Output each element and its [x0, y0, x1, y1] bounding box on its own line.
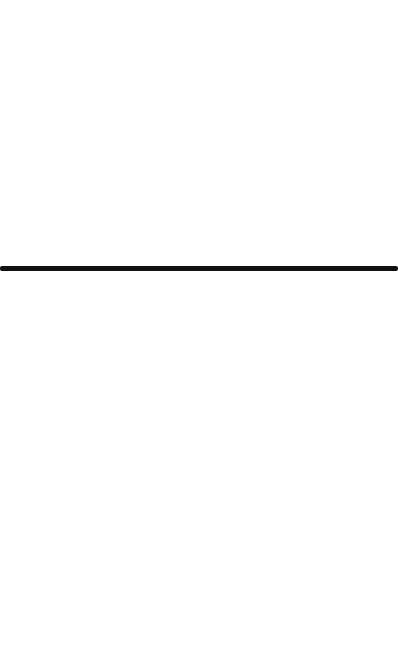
horizontal-divider-line	[0, 266, 398, 271]
blank-canvas	[0, 0, 398, 650]
